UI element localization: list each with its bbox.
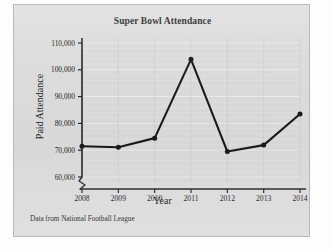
chart-figure-panel: Super Bowl Attendance Paid Attendance 60…: [13, 4, 310, 237]
data-point-marker: [152, 136, 157, 141]
data-point-marker: [80, 144, 85, 149]
x-axis-title: Year: [14, 195, 311, 206]
y-tick-label: 110,000: [51, 39, 75, 48]
y-axis-ticks: 60,00070,00080,00090,000100,000110,000: [51, 39, 82, 182]
data-point-marker: [261, 143, 266, 148]
source-note: Data from National Football League: [30, 215, 135, 223]
data-point-marker: [298, 112, 303, 117]
data-point-marker: [225, 149, 230, 154]
scanned-page: Super Bowl Attendance Paid Attendance 60…: [0, 0, 333, 250]
y-tick-label: 60,000: [55, 173, 76, 182]
y-tick-label: 90,000: [55, 92, 76, 101]
y-tick-label: 80,000: [55, 119, 76, 128]
data-point-marker: [189, 57, 194, 62]
y-tick-label: 70,000: [55, 146, 76, 155]
data-point-marker: [116, 145, 121, 150]
y-tick-label: 100,000: [51, 65, 75, 74]
